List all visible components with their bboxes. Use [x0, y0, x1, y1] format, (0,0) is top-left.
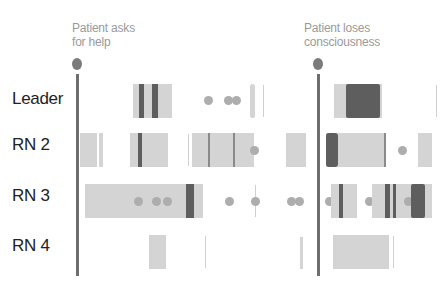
event-marker-line-asks-help — [76, 74, 79, 276]
activity-dot — [204, 96, 213, 105]
activity-dot — [295, 197, 304, 206]
activity-dot — [232, 96, 241, 105]
event-label-line: Patient loses — [304, 21, 380, 35]
activity-segment — [233, 133, 235, 167]
activity-segment — [130, 133, 168, 167]
activity-segment — [250, 84, 255, 118]
team-activity-timeline: Patient asks for help Patient loses cons… — [0, 0, 446, 285]
activity-segment — [300, 237, 303, 269]
activity-segment — [286, 133, 306, 167]
event-label-loses-consciousness: Patient loses consciousness — [304, 21, 380, 49]
event-label-line: for help — [72, 35, 135, 49]
activity-segment — [192, 133, 254, 167]
activity-dot — [163, 197, 172, 206]
event-marker-dot-asks-help — [72, 58, 82, 70]
activity-segment — [186, 184, 194, 218]
row-label-leader: Leader — [12, 89, 63, 109]
activity-dot — [250, 146, 259, 155]
activity-segment — [208, 133, 210, 167]
activity-dot — [398, 146, 407, 155]
activity-tick — [188, 134, 189, 166]
activity-segment — [393, 184, 396, 218]
event-marker-line-loses-consciousness — [317, 74, 320, 276]
row-label-rn4: RN 4 — [12, 236, 50, 256]
activity-tick — [205, 236, 206, 268]
activity-dot — [251, 197, 260, 206]
activity-segment — [326, 133, 338, 167]
activity-dot — [152, 197, 161, 206]
event-marker-dot-loses-consciousness — [313, 58, 323, 70]
activity-segment — [385, 184, 390, 218]
activity-tick — [393, 236, 394, 268]
row-label-rn2: RN 2 — [12, 135, 50, 155]
activity-segment — [99, 133, 103, 167]
event-label-line: consciousness — [304, 35, 380, 49]
activity-segment — [331, 184, 357, 218]
activity-segment — [346, 84, 380, 118]
activity-segment — [339, 184, 343, 218]
activity-segment — [138, 133, 142, 167]
activity-segment — [333, 235, 389, 269]
activity-segment — [418, 133, 432, 167]
activity-dot — [134, 197, 143, 206]
activity-segment — [149, 235, 166, 269]
activity-tick — [436, 85, 437, 117]
event-label-asks-help: Patient asks for help — [72, 21, 135, 49]
activity-segment — [384, 133, 386, 167]
activity-dot — [225, 197, 234, 206]
activity-segment — [139, 84, 144, 118]
activity-tick — [263, 85, 264, 117]
activity-segment — [152, 84, 158, 118]
row-label-rn3: RN 3 — [12, 186, 50, 206]
activity-segment — [80, 133, 97, 167]
event-label-line: Patient asks — [72, 21, 135, 35]
activity-segment — [411, 184, 425, 218]
